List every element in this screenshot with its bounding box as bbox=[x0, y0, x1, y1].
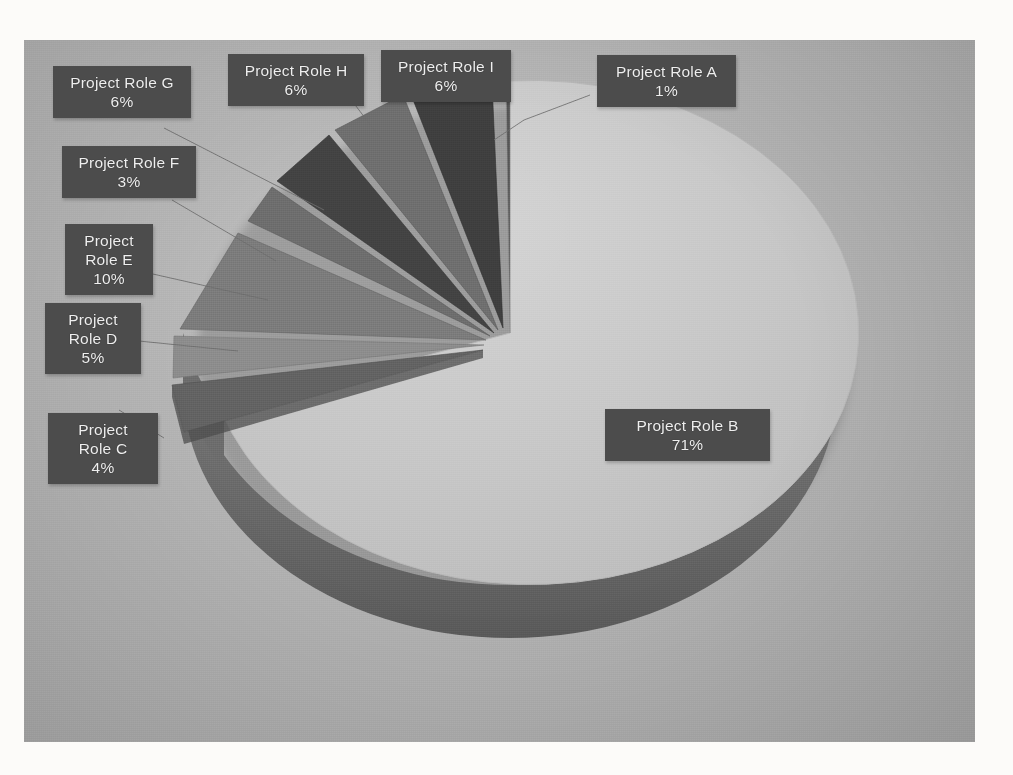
pie-label-title: Project Role D bbox=[54, 310, 132, 348]
pie-label-percent: 6% bbox=[237, 80, 355, 99]
pie-label-title: Project Role H bbox=[237, 61, 355, 80]
pie-label-project-role-i[interactable]: Project Role I 6% bbox=[381, 50, 511, 102]
pie-label-percent: 3% bbox=[71, 172, 187, 191]
pie-label-title: Project Role I bbox=[390, 57, 502, 76]
screenshot-canvas: Project Role G 6% Project Role H 6% Proj… bbox=[0, 0, 1013, 775]
pie-label-percent: 6% bbox=[62, 92, 182, 111]
pie-label-project-role-b[interactable]: Project Role B 71% bbox=[605, 409, 770, 461]
pie-label-percent: 4% bbox=[57, 458, 149, 477]
pie-label-title: Project Role G bbox=[62, 73, 182, 92]
pie-label-title: Project Role E bbox=[74, 231, 144, 269]
pie-label-title: Project Role C bbox=[57, 420, 149, 458]
pie-label-percent: 1% bbox=[606, 81, 727, 100]
pie-label-project-role-f[interactable]: Project Role F 3% bbox=[62, 146, 196, 198]
pie-label-percent: 71% bbox=[614, 435, 761, 454]
pie-label-percent: 6% bbox=[390, 76, 502, 95]
pie-label-title: Project Role B bbox=[614, 416, 761, 435]
pie-label-project-role-d[interactable]: Project Role D 5% bbox=[45, 303, 141, 374]
pie-label-title: Project Role A bbox=[606, 62, 727, 81]
pie-label-project-role-a[interactable]: Project Role A 1% bbox=[597, 55, 736, 107]
pie-label-percent: 5% bbox=[54, 348, 132, 367]
pie-label-percent: 10% bbox=[74, 269, 144, 288]
pie-label-project-role-c[interactable]: Project Role C 4% bbox=[48, 413, 158, 484]
pie-label-project-role-e[interactable]: Project Role E 10% bbox=[65, 224, 153, 295]
pie-label-title: Project Role F bbox=[71, 153, 187, 172]
pie-label-project-role-h[interactable]: Project Role H 6% bbox=[228, 54, 364, 106]
pie-label-project-role-g[interactable]: Project Role G 6% bbox=[53, 66, 191, 118]
